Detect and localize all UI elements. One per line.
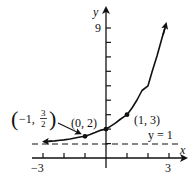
- point-label-0-2: (0, 2): [71, 116, 97, 130]
- x-axis-label: x: [179, 143, 186, 157]
- point-1-3: [125, 112, 130, 117]
- svg-text:−1,: −1,: [19, 112, 35, 126]
- point-label-neg1: ( −1, 3 2 ): [11, 106, 56, 131]
- asymptote-label: y = 1: [148, 128, 173, 142]
- svg-text:(: (: [11, 106, 18, 131]
- x-tick-label-3: 3: [165, 161, 171, 175]
- svg-text:3: 3: [41, 108, 46, 118]
- point-label-1-3: (1, 3): [134, 113, 160, 127]
- x-tick-label-neg3: −3: [31, 161, 44, 175]
- y-tick-label-9: 9: [95, 21, 101, 35]
- point-0-2: [104, 127, 109, 132]
- point-neg1: [83, 134, 88, 139]
- svg-text:): ): [49, 106, 56, 131]
- svg-text:2: 2: [41, 119, 46, 129]
- exponential-graph: y 9 x −3 3 y = 1 (0, 2) (1, 3) ( −1, 3 2…: [0, 0, 196, 186]
- y-axis-label: y: [92, 5, 99, 19]
